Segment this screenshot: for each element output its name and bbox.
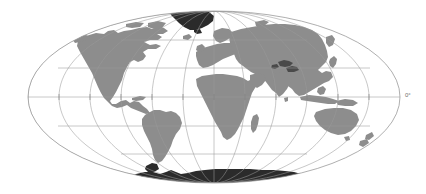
equator-degree-label: 0° bbox=[405, 92, 411, 98]
world-map-figure: 0° bbox=[0, 0, 426, 194]
world-map-canvas bbox=[0, 0, 426, 194]
